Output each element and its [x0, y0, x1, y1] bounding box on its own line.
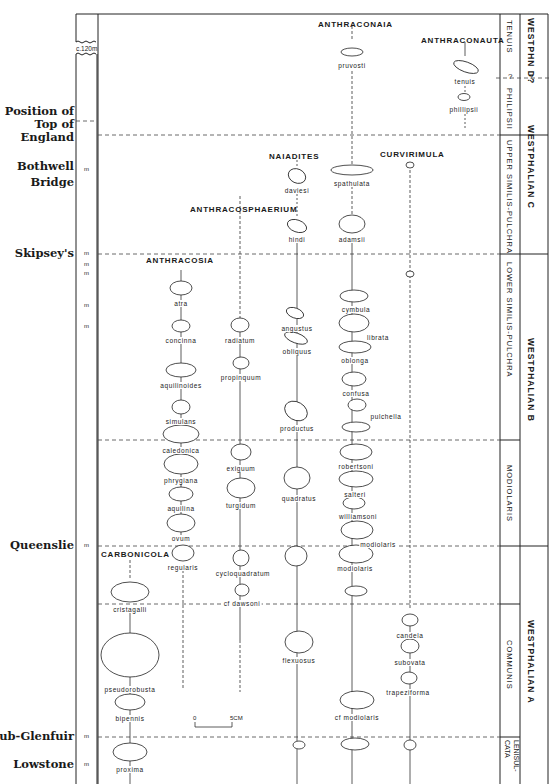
species-label-cymbula: cymbula — [341, 306, 371, 313]
genus-curvirimula: CURVIRIMULA — [380, 150, 445, 159]
genus-anthraconauta: ANTHRACONAUTA — [421, 36, 505, 45]
locality-queenslie: Queenslie — [10, 539, 74, 552]
species-label-modiolaris-upper: modiolaris — [359, 541, 397, 548]
scale-bar-end: 5CM — [230, 715, 243, 721]
scale-bar-start: 0 — [193, 715, 196, 721]
species-label-tenuis: tenuis — [454, 78, 477, 85]
locality-sub-glenfuir: Sub-Glenfuir — [0, 730, 74, 743]
locality-bothwell-bridge: Bothwell Bridge — [17, 160, 74, 189]
species-label-regularis: regularis — [167, 564, 199, 571]
species-label-hindi: hindi — [288, 236, 307, 243]
species-label-pruvosti: pruvosti — [337, 62, 367, 69]
genus-naiadites: NAIADITES — [269, 152, 319, 161]
species-label-concinna: concinna — [165, 337, 198, 344]
species-label-trapeziforma: trapeziforma — [385, 689, 430, 696]
species-label-robertsoni: robertsoni — [338, 463, 375, 470]
species-label-daviesi: daviesi — [284, 187, 310, 194]
genus-anthracosia: ANTHRACOSIA — [146, 256, 214, 265]
species-label-spathulata: spathulata — [333, 180, 371, 187]
species-label-librata: librata — [366, 334, 390, 341]
species-label-productus: productus — [279, 425, 315, 432]
uncertain-boundary-mark: ? — [508, 72, 512, 81]
species-label-candela: candela — [396, 632, 425, 639]
range-chart-lines — [0, 0, 552, 784]
species-label-cf-dawsoni: cf dawsoni — [223, 600, 262, 607]
species-label-adamsii: adamsii — [338, 236, 367, 243]
species-label-caledonica: caledonica — [161, 447, 200, 454]
species-label-radiatum: radiatum — [224, 337, 256, 344]
marker-tick: m — [84, 761, 89, 767]
species-label-atra: atra — [173, 300, 189, 307]
zone-philipsii: PHILIPSII — [505, 88, 514, 130]
species-label-cristagalli: cristagalli — [112, 606, 148, 613]
locality-skipseys: Skipsey's — [15, 247, 74, 260]
stage-westphalian-b: WESTPHALIAN B — [526, 338, 536, 422]
species-label-phillipsii: phillipsii — [449, 106, 480, 113]
marker-tick: m — [84, 323, 89, 329]
marker-tick: m — [84, 166, 89, 172]
species-label-propinquum: propinquum — [220, 374, 262, 381]
species-label-salteri: salteri — [343, 491, 367, 498]
species-label-aquilina: aquilina — [166, 505, 195, 512]
species-label-cf-modiolaris: cf modiolaris — [334, 714, 380, 721]
species-label-flexuosus: flexuosus — [282, 657, 317, 664]
marker-tick: m — [84, 261, 89, 267]
marker-tick: m — [84, 270, 89, 276]
species-label-ovum: ovum — [171, 535, 191, 542]
species-label-turgidum: turgidum — [225, 502, 257, 509]
column-header: c.120m — [76, 45, 97, 52]
species-label-cycloquadratum: cycloquadratum — [215, 570, 271, 577]
zone-tenuis: TENUIS — [505, 20, 514, 54]
stage-westphalian-d: WESTPHN D? — [526, 18, 536, 84]
zone-lenisulcata: LENISUL-CATA — [503, 740, 521, 784]
species-label-modiolaris-lower: modiolaris — [336, 565, 374, 572]
species-label-pseudorobusta: pseudorobusta — [104, 686, 157, 693]
locality-top-of-england: Position of Top of England — [5, 105, 74, 144]
species-label-simulans: simulans — [165, 418, 197, 425]
species-label-quadratus: quadratus — [281, 495, 317, 502]
species-label-proxima: proxima — [115, 766, 144, 773]
species-label-obliquus: obliquus — [281, 348, 312, 355]
species-label-confusa: confusa — [342, 390, 371, 397]
species-label-subovata: subovata — [393, 659, 426, 666]
zone-upper-similis-pulchra: UPPER SIMILIS-PULCHRA — [505, 140, 514, 254]
genus-anthraconaia: ANTHRACONAIA — [318, 20, 393, 29]
marker-tick: m — [84, 542, 89, 548]
marker-tick: m — [84, 733, 89, 739]
species-label-angustus: angustus — [280, 325, 313, 332]
species-label-bipennis: bipennis — [114, 715, 145, 722]
stage-westphalian-c: WESTPHALIAN C — [526, 125, 536, 209]
marker-tick: m — [84, 250, 89, 256]
genus-anthracosphaerium: ANTHRACOSPHAERIUM — [190, 205, 297, 214]
species-label-oblonga: oblonga — [340, 357, 369, 364]
species-label-exiguum: exiguum — [226, 465, 257, 472]
stage-westphalian-a: WESTPHALIAN A — [526, 620, 536, 704]
zone-lower-similis-pulchra: LOWER SIMILIS-PULCHRA — [505, 262, 514, 378]
species-label-phrygiana: phrygiana — [163, 477, 199, 484]
locality-lowstone: Lowstone — [13, 758, 74, 771]
marker-tick: m — [84, 302, 89, 308]
zone-communis: COMMUNIS — [505, 640, 514, 690]
species-label-aquilinoides: aquilinoides — [159, 382, 203, 389]
genus-carbonicola: CARBONICOLA — [101, 550, 170, 559]
species-label-williamsoni: williamsoni — [338, 513, 378, 520]
zone-modiolaris: MODIOLARIS — [505, 465, 514, 522]
species-label-pulchella: pulchella — [369, 413, 402, 420]
